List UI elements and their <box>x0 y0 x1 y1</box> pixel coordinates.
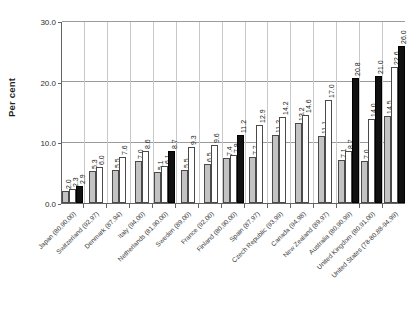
x-label-cell: United Kingdom (80,91,00) <box>359 208 382 309</box>
bar[interactable]: 5.5 <box>112 170 119 203</box>
bar[interactable]: 9.3 <box>188 147 195 203</box>
bar[interactable]: 12.9 <box>256 125 263 203</box>
bar[interactable]: 6.0 <box>96 167 103 203</box>
bar[interactable]: 21.0 <box>375 76 382 203</box>
bar-group: 5.59.3 <box>177 22 200 203</box>
bar[interactable]: 2.0 <box>62 191 69 203</box>
bar-value-label: 9.6 <box>213 133 220 143</box>
bar-group: 11.117.0 <box>314 22 337 203</box>
y-tick-mark <box>58 83 61 84</box>
bar-value-label: 7.6 <box>121 145 128 155</box>
bar-group: 7.712.9 <box>246 22 269 203</box>
bar[interactable]: 8.7 <box>345 151 352 203</box>
bar[interactable]: 7.0 <box>361 161 368 203</box>
bar-groups: 2.02.32.95.36.05.57.67.08.65.16.18.75.59… <box>62 22 405 203</box>
bar[interactable]: 11.2 <box>272 135 279 203</box>
bar-value-label: 14.2 <box>281 102 288 116</box>
bar-group: 11.214.2 <box>268 22 291 203</box>
bar[interactable]: 5.5 <box>181 170 188 203</box>
bar[interactable]: 8.6 <box>142 151 149 203</box>
x-tick-label: Japan (80,90,00) <box>37 210 77 250</box>
bar-group: 2.02.32.9 <box>62 22 85 203</box>
bar-group: 14.522.626.0 <box>383 22 405 203</box>
bar[interactable]: 6.5 <box>204 164 211 203</box>
y-tick-mark <box>58 143 61 144</box>
bar[interactable]: 20.8 <box>352 78 359 203</box>
bar-group: 5.57.6 <box>108 22 131 203</box>
bar-chart: Per cent 2.02.32.95.36.05.57.67.08.65.16… <box>0 0 414 309</box>
y-tick-label: 30.0 <box>12 18 56 27</box>
bar-group: 5.36.0 <box>85 22 108 203</box>
bar[interactable]: 7.4 <box>223 158 230 203</box>
bar[interactable]: 2.9 <box>76 186 83 203</box>
bar[interactable]: 7.1 <box>338 160 345 203</box>
y-tick-mark <box>58 204 61 205</box>
bar-group: 5.16.18.7 <box>154 22 177 203</box>
bar[interactable]: 22.6 <box>391 67 398 203</box>
bar[interactable]: 11.1 <box>318 136 325 203</box>
x-label-cell: Canada (94,98) <box>290 208 313 309</box>
bar[interactable]: 7.7 <box>249 157 256 203</box>
bar-value-label: 12.9 <box>258 110 265 124</box>
bar-value-label: 9.3 <box>190 135 197 145</box>
x-label-cell: United States (78-80,88-94,99) <box>382 208 405 309</box>
x-axis-labels: Japan (80,90,00)Switzerland (92,97)Denma… <box>61 208 405 309</box>
bar[interactable]: 14.6 <box>302 115 309 203</box>
y-tick-label: 0.0 <box>12 200 56 209</box>
bar[interactable]: 14.0 <box>368 119 375 203</box>
bar-value-label: 6.0 <box>98 155 105 165</box>
bar[interactable]: 7.9 <box>230 155 237 203</box>
bar-value-label: 8.6 <box>144 139 151 149</box>
plot-area: 2.02.32.95.36.05.57.67.08.65.16.18.75.59… <box>61 22 405 204</box>
bar-group: 6.59.6 <box>200 22 223 203</box>
bar[interactable]: 14.5 <box>384 116 391 203</box>
y-tick-mark <box>58 22 61 23</box>
bar-value-label: 26.0 <box>400 31 407 45</box>
bar[interactable]: 13.2 <box>295 123 302 203</box>
bar[interactable]: 11.2 <box>237 135 244 203</box>
bar[interactable]: 2.3 <box>69 189 76 203</box>
bar[interactable]: 17.0 <box>325 100 332 203</box>
bar[interactable]: 7.0 <box>135 161 142 203</box>
bar-value-label: 2.0 <box>64 179 71 189</box>
bar[interactable]: 7.6 <box>119 157 126 203</box>
bar-value-label: 14.6 <box>304 99 311 113</box>
bar[interactable]: 5.1 <box>154 172 161 203</box>
bar[interactable]: 14.2 <box>279 117 286 203</box>
y-tick-label: 10.0 <box>12 139 56 148</box>
bar-group: 13.214.6 <box>291 22 314 203</box>
bar[interactable]: 6.1 <box>161 166 168 203</box>
bar-group: 7.18.720.8 <box>337 22 360 203</box>
bar[interactable]: 26.0 <box>398 46 405 203</box>
bar-value-label: 17.0 <box>327 85 334 99</box>
bar[interactable]: 8.7 <box>168 151 175 203</box>
bar-group: 7.08.6 <box>131 22 154 203</box>
bar[interactable]: 9.6 <box>211 145 218 203</box>
bar-group: 7.47.911.2 <box>223 22 246 203</box>
y-tick-label: 20.0 <box>12 78 56 87</box>
bar[interactable]: 5.3 <box>89 171 96 203</box>
bar-group: 7.014.021.0 <box>360 22 383 203</box>
